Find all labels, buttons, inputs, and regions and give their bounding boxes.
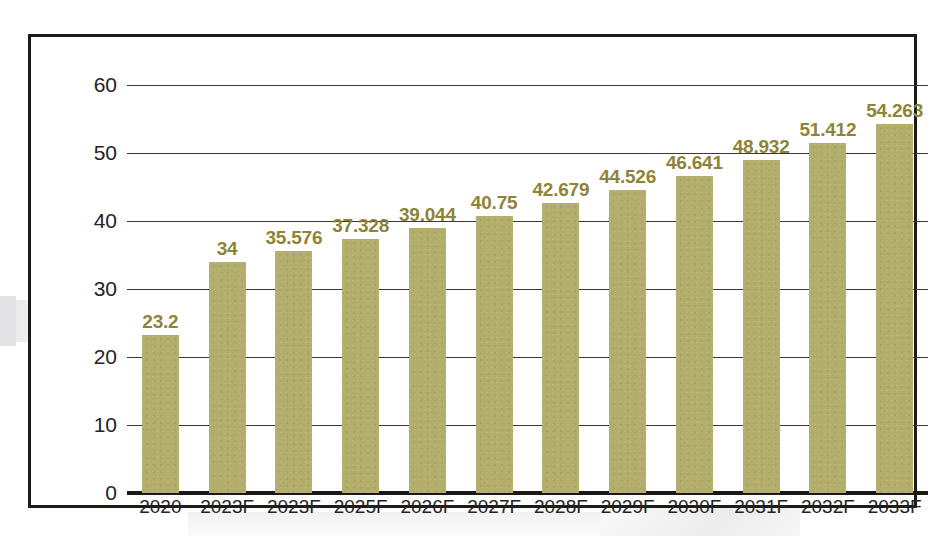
bar[interactable]	[609, 190, 646, 493]
y-tick-label: 30	[73, 278, 117, 299]
bar[interactable]	[342, 239, 379, 493]
bar-value-label: 46.641	[666, 153, 723, 172]
y-tick-label: 0	[73, 482, 117, 503]
bar-value-label: 44.526	[599, 167, 656, 186]
bar[interactable]	[476, 216, 513, 493]
chart-frame: 6050403020100 23.23435.57637.32839.04440…	[28, 34, 917, 508]
bar[interactable]	[542, 203, 579, 493]
bar-value-label: 39.044	[399, 205, 456, 224]
bar-value-label: 35.576	[265, 228, 322, 247]
bar[interactable]	[876, 124, 913, 493]
x-tick-label: 2027F	[461, 497, 528, 516]
scan-artifact-left-edge	[0, 296, 16, 346]
bar-value-label: 40.75	[471, 193, 518, 212]
x-tick-label: 2023F	[194, 497, 261, 516]
y-axis: 6050403020100	[65, 85, 117, 493]
x-tick-label: 2026F	[394, 497, 461, 516]
x-tick-label: 2020	[127, 497, 194, 516]
x-tick-label: 2033F	[861, 497, 928, 516]
x-tick-label: 2032F	[795, 497, 862, 516]
bar[interactable]	[409, 228, 446, 493]
y-tick-label: 40	[73, 210, 117, 231]
bar-value-label: 48.932	[733, 137, 790, 156]
bar[interactable]	[676, 176, 713, 493]
bar-value-label: 54.263	[866, 101, 923, 120]
y-tick-label: 50	[73, 142, 117, 163]
bar[interactable]	[743, 160, 780, 493]
bar-value-label: 42.679	[532, 180, 589, 199]
bar[interactable]	[142, 335, 179, 493]
y-tick-label: 60	[73, 74, 117, 95]
bar[interactable]	[275, 251, 312, 493]
x-tick-label: 2023F	[261, 497, 328, 516]
bar-value-label: 23.2	[142, 312, 178, 331]
x-tick-label: 2025F	[327, 497, 394, 516]
bar[interactable]	[209, 262, 246, 493]
x-tick-label: 2030F	[661, 497, 728, 516]
bar-value-label: 37.328	[332, 216, 389, 235]
x-tick-label: 2031F	[728, 497, 795, 516]
y-tick-label: 10	[73, 414, 117, 435]
x-axis: 20202023F2023F2025F2026F2027F2028F2029F2…	[127, 497, 928, 527]
bar-value-label: 51.412	[799, 120, 856, 139]
bar-value-label: 34	[217, 239, 238, 258]
bar[interactable]	[809, 143, 846, 493]
x-tick-label: 2028F	[528, 497, 595, 516]
y-tick-label: 20	[73, 346, 117, 367]
bar-series: 23.23435.57637.32839.04440.7542.67944.52…	[127, 85, 928, 493]
x-tick-label: 2029F	[594, 497, 661, 516]
